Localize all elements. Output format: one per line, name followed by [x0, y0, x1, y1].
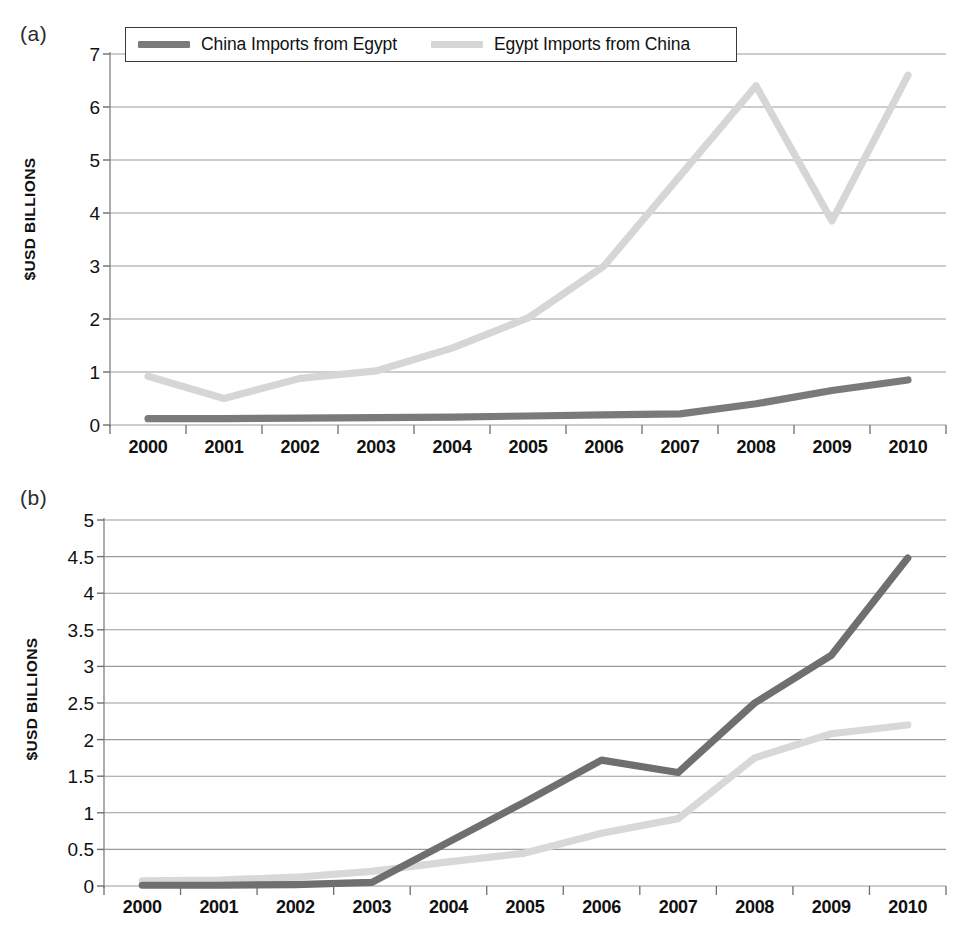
y-tick-label: 3.5	[68, 620, 94, 639]
x-tick-label: 2004	[410, 897, 487, 918]
x-tick-label: 2001	[181, 897, 258, 918]
x-tick-label: 2005	[487, 897, 564, 918]
y-tick-label: 0	[89, 416, 100, 435]
x-tick-label: 2006	[566, 437, 642, 458]
series-lines-a	[148, 75, 908, 418]
x-tick-label: 2006	[563, 897, 640, 918]
y-tick-label: 5	[83, 511, 94, 530]
figure-root: (a) $USD BILLIONS 7 6 5 4 3 2 1 0 2000 2…	[0, 0, 956, 937]
panel-label-a: (a)	[20, 22, 47, 46]
y-tick-label: 2.5	[68, 694, 94, 713]
y-tick-label: 7	[89, 45, 100, 64]
y-tick-label: 3	[89, 257, 100, 276]
y-tick-label: 6	[89, 98, 100, 117]
y-tick-label: 4.5	[68, 547, 94, 566]
x-tick-label: 2007	[640, 897, 717, 918]
y-tick-label: 0.5	[68, 840, 94, 859]
x-tick-label: 2008	[718, 437, 794, 458]
gridlines-b	[104, 520, 946, 886]
legend-a: China Imports from Egypt Egypt Imports f…	[125, 27, 737, 62]
legend-label: Egypt Imports from China	[494, 34, 690, 55]
y-tick-label: 2	[89, 310, 100, 329]
x-tick-label: 2003	[334, 897, 411, 918]
plot-area-b	[104, 520, 946, 886]
x-tick-label: 2002	[262, 437, 338, 458]
x-tick-label: 2000	[110, 437, 186, 458]
legend-item-china-imports-from-egypt[interactable]: China Imports from Egypt	[138, 34, 397, 55]
x-tick-label: 2002	[257, 897, 334, 918]
x-tick-label: 2003	[338, 437, 414, 458]
x-axis-labels-a: 2000 2001 2002 2003 2004 2005 2006 2007 …	[110, 437, 946, 458]
y-axis-title-b: $USD BILLIONS	[23, 609, 41, 789]
line-chart-a	[110, 54, 946, 425]
x-tick-label: 2009	[794, 437, 870, 458]
legend-swatch-icon	[431, 41, 483, 48]
x-tick-label: 2010	[870, 437, 946, 458]
x-tick-label: 2009	[793, 897, 870, 918]
series-lines-b	[142, 558, 907, 885]
x-tick-label: 2004	[414, 437, 490, 458]
chart-panel-a: (a) $USD BILLIONS 7 6 5 4 3 2 1 0 2000 2…	[0, 0, 956, 470]
gridlines-a	[110, 54, 946, 425]
x-tick-label: 2005	[490, 437, 566, 458]
legend-label: China Imports from Egypt	[201, 34, 397, 55]
legend-item-egypt-imports-from-china[interactable]: Egypt Imports from China	[431, 34, 690, 55]
x-axis-labels-b: 2000 2001 2002 2003 2004 2005 2006 2007 …	[104, 897, 946, 918]
y-axis-title-a: $USD BILLIONS	[21, 129, 39, 309]
y-tick-label: 1	[89, 363, 100, 382]
y-tick-label: 4	[89, 204, 100, 223]
y-tick-label: 4	[83, 584, 94, 603]
y-tick-label: 1	[83, 803, 94, 822]
x-tick-label: 2000	[104, 897, 181, 918]
chart-panel-b: (b) $USD BILLIONS 5 4.5 4 3.5 3 2.5 2 1.…	[0, 470, 956, 937]
y-tick-label: 0	[83, 877, 94, 896]
x-tick-label: 2010	[869, 897, 946, 918]
legend-swatch-icon	[138, 41, 190, 48]
plot-area-a	[110, 54, 946, 425]
axes-a	[103, 52, 946, 434]
line-chart-b	[104, 520, 946, 886]
x-tick-label: 2007	[642, 437, 718, 458]
y-axis-ticks-b: 5 4.5 4 3.5 3 2.5 2 1.5 1 0.5 0	[42, 470, 94, 937]
axes-b	[97, 518, 946, 895]
y-tick-label: 2	[83, 730, 94, 749]
y-axis-ticks-a: 7 6 5 4 3 2 1 0	[48, 0, 100, 470]
y-tick-label: 5	[89, 151, 100, 170]
x-tick-label: 2008	[716, 897, 793, 918]
y-tick-label: 1.5	[68, 767, 94, 786]
y-tick-label: 3	[83, 657, 94, 676]
x-tick-label: 2001	[186, 437, 262, 458]
